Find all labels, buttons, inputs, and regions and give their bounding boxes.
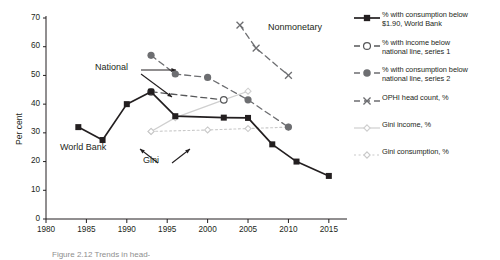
chart-series-group <box>75 22 332 179</box>
annotation-world-bank: World Bank <box>60 142 106 152</box>
legend-marker-world-bank <box>352 11 382 25</box>
annotation-arrow <box>141 74 172 97</box>
legend-item-world-bank[interactable]: % with consumption below $1.90, World Ba… <box>352 10 500 29</box>
legend-marker-gini-consumption <box>352 148 382 162</box>
legend-marker-national-series-1 <box>352 39 382 53</box>
legend-label-ophi: OPHI head count, % <box>382 93 448 102</box>
chart-axes <box>43 16 347 223</box>
series-world-bank <box>75 89 332 179</box>
legend-item-national-series-2[interactable]: % with consumption below national line, … <box>352 65 500 84</box>
x-tick-label: 2010 <box>272 225 304 234</box>
x-tick-label: 1985 <box>70 225 102 234</box>
x-tick-label: 1980 <box>30 225 62 234</box>
y-tick-label: 30 <box>20 127 40 136</box>
annotation-gini: Gini <box>143 155 159 165</box>
y-tick-label: 20 <box>20 156 40 165</box>
series-gini-consumption <box>148 124 291 134</box>
annotation-arrow <box>141 68 176 72</box>
y-tick-label: 70 <box>20 13 40 22</box>
series-national-series-2 <box>147 52 292 131</box>
legend-label-national-series-2: % with consumption below national line, … <box>382 65 468 84</box>
annotation-arrow <box>172 149 190 163</box>
y-tick-label: 60 <box>20 41 40 50</box>
x-tick-label: 2005 <box>232 225 264 234</box>
x-tick-label: 2015 <box>313 225 345 234</box>
legend-item-ophi[interactable]: OPHI head count, % <box>352 93 500 111</box>
x-tick-label: 2000 <box>192 225 224 234</box>
legend-marker-national-series-2 <box>352 66 382 80</box>
y-tick-label: 0 <box>20 214 40 223</box>
chart-legend: % with consumption below $1.90, World Ba… <box>352 10 500 174</box>
legend-label-national-series-1: % with income below national line, serie… <box>382 38 450 57</box>
y-tick-label: 10 <box>20 185 40 194</box>
x-tick-label: 1990 <box>111 225 143 234</box>
legend-label-gini-consumption: Gini consumption, % <box>382 147 449 156</box>
legend-item-gini-income[interactable]: Gini income, % <box>352 120 500 138</box>
annotation-nonmonetary: Nonmonetary <box>268 22 322 32</box>
legend-marker-gini-income <box>352 121 382 135</box>
chart-figure: Per cent 7060504030201001980198519901995… <box>0 0 500 260</box>
series-gini-income <box>148 88 251 134</box>
annotation-national: National <box>95 62 128 72</box>
legend-marker-ophi <box>352 94 382 108</box>
legend-item-gini-consumption[interactable]: Gini consumption, % <box>352 147 500 165</box>
y-tick-label: 50 <box>20 70 40 79</box>
figure-caption: Figure 2.12 Trends in head- <box>52 250 150 260</box>
legend-item-national-series-1[interactable]: % with income below national line, serie… <box>352 38 500 57</box>
x-tick-label: 1995 <box>151 225 183 234</box>
legend-label-gini-income: Gini income, % <box>382 120 431 129</box>
legend-label-world-bank: % with consumption below $1.90, World Ba… <box>382 10 468 29</box>
y-tick-label: 40 <box>20 99 40 108</box>
